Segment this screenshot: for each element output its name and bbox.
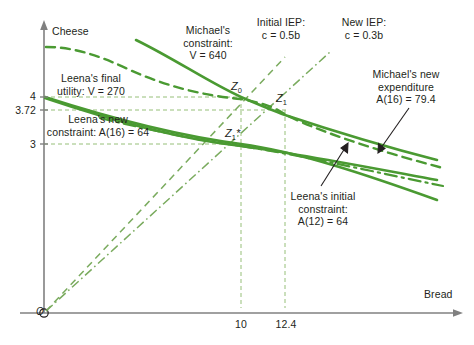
annotation-leenas-new-constraint: Leena's new constraint: A(16) = 64 — [24, 113, 172, 138]
arrow-line-michaels-new-expenditure — [381, 108, 409, 148]
axes-group — [20, 20, 463, 317]
point-label-z0-sub: 0 — [238, 86, 242, 95]
annotation-leenas-initial-constraint: Leena's initial constraint: A(12) = 64 — [268, 190, 378, 228]
y-axis-label: Cheese — [52, 25, 89, 38]
point-label-z1star-star: * — [236, 127, 240, 139]
origin-label: O — [36, 306, 44, 319]
annotation-initial-iep: Initial IEP: c = 0.5b — [243, 16, 319, 41]
arrow-head-leenas-initial-constraint — [341, 143, 348, 153]
point-label-z0-base: Z — [231, 80, 238, 92]
xtick-label-124: 12.4 — [268, 318, 304, 331]
point-label-z1star-base: Z — [225, 127, 232, 139]
xtick-label-10: 10 — [227, 318, 255, 331]
ytick-label-4: 4 — [8, 90, 36, 103]
indifference-curve-diagram: Cheese Bread O 4 3.72 3 10 12.4 Michael'… — [0, 0, 474, 345]
y-axis-arrow — [40, 20, 48, 30]
point-label-z1: Z1 — [276, 92, 287, 110]
annotation-new-iep: New IEP: c = 0.3b — [327, 16, 401, 41]
annotation-leenas-final-utility: Leena's final utility: V = 270 — [36, 72, 146, 97]
x-axis-label: Bread — [424, 288, 453, 301]
annotation-michaels-new-expenditure: Michael's new expenditure A(16) = 79.4 — [350, 68, 462, 106]
point-label-z0: Z0 — [231, 80, 242, 98]
point-label-z1-star: Z1* — [225, 127, 241, 145]
x-axis-arrow — [453, 309, 463, 317]
point-label-z1-base: Z — [276, 92, 283, 104]
ytick-label-3: 3 — [8, 138, 36, 151]
point-label-z1-sub: 1 — [283, 98, 287, 107]
